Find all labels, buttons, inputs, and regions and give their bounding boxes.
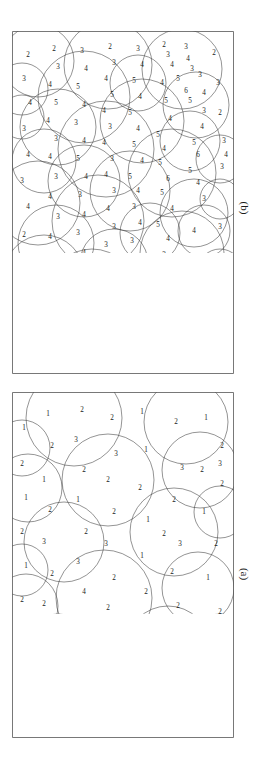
multiplicity-label: 2 bbox=[52, 45, 56, 53]
grain-circle bbox=[88, 281, 172, 365]
multiplicity-label: 3 bbox=[132, 275, 136, 283]
multiplicity-label: 5 bbox=[132, 77, 136, 85]
panel-b: 2323433234356534345654343223445454565454… bbox=[12, 31, 234, 374]
multiplicity-label: 3 bbox=[20, 177, 24, 185]
multiplicity-label: 2 bbox=[214, 540, 218, 548]
multiplicity-label: 2 bbox=[20, 460, 24, 468]
multiplicity-label: 2 bbox=[216, 674, 220, 682]
multiplicity-label: 2 bbox=[82, 466, 86, 474]
panel-a-model-space: 1232121212123232222322111211221122322322… bbox=[12, 392, 234, 738]
multiplicity-label: 1 bbox=[176, 724, 180, 732]
multiplicity-label: 3 bbox=[104, 281, 108, 289]
multiplicity-label: 4 bbox=[136, 125, 140, 133]
grain-circle bbox=[196, 135, 234, 183]
multiplicity-label: 1 bbox=[24, 562, 28, 570]
multiplicity-label: 1 bbox=[140, 552, 144, 560]
multiplicity-label: 5 bbox=[132, 141, 136, 149]
multiplicity-label: 1 bbox=[212, 638, 216, 646]
multiplicity-label: 4 bbox=[102, 139, 106, 147]
multiplicity-label: 3 bbox=[162, 251, 166, 259]
multiplicity-label: 1 bbox=[76, 496, 80, 504]
multiplicity-label: 3 bbox=[74, 436, 78, 444]
multiplicity-label: 4 bbox=[140, 61, 144, 69]
multiplicity-label: 3 bbox=[104, 241, 108, 249]
multiplicity-label: 3 bbox=[160, 295, 164, 303]
multiplicity-label: 2 bbox=[106, 604, 110, 612]
multiplicity-label: 2 bbox=[42, 726, 46, 734]
multiplicity-label: 3 bbox=[54, 253, 58, 261]
multiplicity-label: 4 bbox=[82, 101, 86, 109]
multiplicity-label: 3 bbox=[56, 213, 60, 221]
multiplicity-label: 3 bbox=[198, 71, 202, 79]
multiplicity-label: 4 bbox=[102, 107, 106, 115]
figure-root: 2323433234356534345654343223445454565454… bbox=[0, 0, 259, 767]
multiplicity-label: 3 bbox=[180, 464, 184, 472]
multiplicity-label: 2 bbox=[108, 43, 112, 51]
multiplicity-label: 3 bbox=[166, 636, 170, 644]
multiplicity-label: 5 bbox=[188, 97, 192, 105]
multiplicity-label: 2 bbox=[54, 345, 58, 353]
multiplicity-label: 3 bbox=[112, 59, 116, 67]
multiplicity-label: 4 bbox=[48, 153, 52, 161]
grain-circle bbox=[36, 297, 112, 373]
multiplicity-label: 3 bbox=[28, 259, 32, 267]
multiplicity-label: 2 bbox=[112, 574, 116, 582]
multiplicity-label: 3 bbox=[86, 337, 90, 345]
multiplicity-label: 2 bbox=[50, 570, 54, 578]
multiplicity-label: 5 bbox=[76, 155, 80, 163]
grain-circle bbox=[194, 486, 234, 538]
multiplicity-label: 3 bbox=[106, 670, 110, 678]
multiplicity-label: 4 bbox=[140, 157, 144, 165]
multiplicity-label: 2 bbox=[220, 480, 224, 488]
multiplicity-label: 5 bbox=[188, 167, 192, 175]
multiplicity-label: 3 bbox=[74, 119, 78, 127]
multiplicity-label: 4 bbox=[82, 137, 86, 145]
grain-circle bbox=[12, 63, 48, 115]
multiplicity-label: 2 bbox=[166, 317, 170, 325]
panel-a: 1232121212123232222322111211221122322322… bbox=[12, 392, 234, 738]
multiplicity-label: 3 bbox=[78, 191, 82, 199]
multiplicity-label: 1 bbox=[22, 424, 26, 432]
panel-b-canvas: 2323433234356534345654343223445454565454… bbox=[12, 31, 234, 374]
multiplicity-label: 3 bbox=[178, 540, 182, 548]
multiplicity-label: 5 bbox=[128, 109, 132, 117]
grain-circle bbox=[12, 281, 70, 345]
grain-circle bbox=[52, 175, 144, 267]
multiplicity-label: 3 bbox=[216, 79, 220, 87]
grain-circle bbox=[126, 606, 210, 690]
multiplicity-label: 4 bbox=[200, 123, 204, 131]
multiplicity-label: 4 bbox=[82, 211, 86, 219]
multiplicity-label: 2 bbox=[200, 466, 204, 474]
grain-circle bbox=[24, 502, 104, 582]
multiplicity-label: 2 bbox=[138, 297, 142, 305]
multiplicity-label: 4 bbox=[26, 203, 30, 211]
multiplicity-label: 3 bbox=[112, 187, 116, 195]
multiplicity-label: 5 bbox=[156, 131, 160, 139]
multiplicity-label: 4 bbox=[166, 235, 170, 243]
multiplicity-label: 3 bbox=[108, 123, 112, 131]
multiplicity-label: 1 bbox=[206, 574, 210, 582]
grain-circle bbox=[136, 710, 180, 738]
grain-circle bbox=[48, 249, 136, 337]
grain-circle bbox=[198, 249, 234, 293]
grain-circle bbox=[12, 686, 66, 738]
multiplicity-label: 4 bbox=[26, 151, 30, 159]
multiplicity-label: 4 bbox=[110, 261, 114, 269]
panel-b-caption: (b) bbox=[239, 202, 251, 215]
multiplicity-label: 4 bbox=[106, 205, 110, 213]
multiplicity-label: 1 bbox=[202, 508, 206, 516]
multiplicity-label: 6 bbox=[184, 87, 188, 95]
multiplicity-label: 5 bbox=[176, 75, 180, 83]
multiplicity-label: 2 bbox=[80, 406, 84, 414]
multiplicity-label: 4 bbox=[48, 81, 52, 89]
multiplicity-label: 4 bbox=[82, 588, 86, 596]
multiplicity-label: 3 bbox=[202, 195, 206, 203]
multiplicity-label: 2 bbox=[22, 347, 26, 355]
multiplicity-label: 5 bbox=[54, 99, 58, 107]
grain-circle bbox=[12, 31, 74, 97]
multiplicity-label: 2 bbox=[42, 664, 46, 672]
multiplicity-label: 3 bbox=[166, 51, 170, 59]
multiplicity-label: 3 bbox=[112, 223, 116, 231]
multiplicity-label: 4 bbox=[224, 151, 228, 159]
multiplicity-label: 2 bbox=[136, 620, 140, 628]
